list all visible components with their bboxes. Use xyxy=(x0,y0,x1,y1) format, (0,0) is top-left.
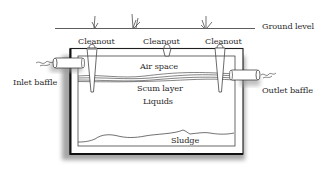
label-liquids: Liquids xyxy=(143,97,173,105)
label-inlet-baffle: Inlet baffle xyxy=(13,78,57,86)
inlet-pipe xyxy=(36,58,85,72)
label-cleanout-left: Cleanout xyxy=(78,37,115,45)
cleanout-middle-pipe xyxy=(163,44,171,56)
label-cleanout-right: Cleanout xyxy=(205,37,242,45)
label-outlet-baffle: Outlet baffle xyxy=(262,86,313,94)
grass-tuft-icon xyxy=(92,14,212,28)
label-ground-level: Ground level xyxy=(262,22,314,30)
label-cleanout-middle: Cleanout xyxy=(143,37,180,45)
label-sludge: Sludge xyxy=(171,136,199,144)
outflow-squiggle-icon xyxy=(261,73,276,78)
label-air-space: Air space xyxy=(140,62,178,70)
label-scum-layer: Scum layer xyxy=(137,84,183,92)
